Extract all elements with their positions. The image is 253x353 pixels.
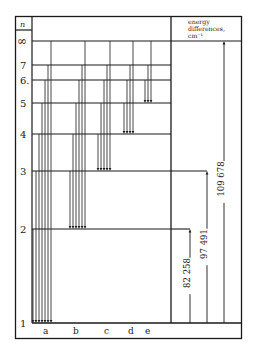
energy-differences: 82 25897 491109 678 bbox=[182, 41, 226, 323]
series-b: b bbox=[69, 41, 87, 336]
energy-difference: 109 678 bbox=[216, 41, 226, 323]
level-label: ∞ bbox=[17, 34, 27, 48]
series-d: d bbox=[123, 41, 135, 336]
level-label: 3 bbox=[20, 166, 26, 177]
difference-label: 109 678 bbox=[216, 161, 226, 196]
energy-level-diagram: n energydifferences,cm⁻¹ ∞76.54321 abcde… bbox=[0, 0, 253, 353]
series-label: d bbox=[128, 326, 134, 336]
series-label: b bbox=[73, 326, 79, 336]
n-header-label: n bbox=[20, 20, 25, 29]
level-label: 5 bbox=[20, 98, 26, 109]
energy-difference: 82 258 bbox=[182, 229, 192, 323]
energy-header: energydifferences,cm⁻¹ bbox=[188, 18, 225, 39]
series-a: a bbox=[32, 41, 53, 336]
level-label: 4 bbox=[20, 129, 26, 140]
difference-label: 97 491 bbox=[199, 229, 209, 259]
difference-label: 82 258 bbox=[182, 258, 192, 288]
series-label: a bbox=[43, 326, 49, 336]
energy-difference: 97 491 bbox=[199, 171, 209, 323]
series-e: e bbox=[144, 41, 153, 336]
series-label: c bbox=[104, 326, 109, 336]
level-label: 6. bbox=[20, 75, 30, 86]
energy-header-line: differences, bbox=[188, 25, 225, 32]
level-label: 2 bbox=[20, 224, 26, 235]
energy-header-line: cm⁻¹ bbox=[188, 32, 203, 39]
series-c: c bbox=[97, 41, 112, 336]
series-label: e bbox=[145, 326, 150, 336]
level-label: 7 bbox=[20, 60, 26, 71]
level-label: 1 bbox=[20, 318, 26, 329]
spectral-series: abcde bbox=[32, 41, 153, 336]
